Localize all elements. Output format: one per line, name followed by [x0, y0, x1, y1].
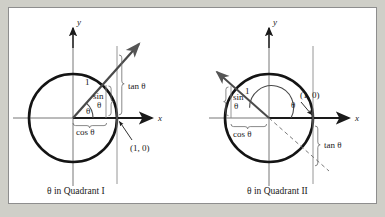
caption-quadrant-ii: θ in Quadrant II — [247, 186, 308, 196]
panel-quadrant-i: y x — [13, 17, 162, 196]
x-axis-label-quadrant-ii: x — [354, 113, 359, 123]
angle-arc-quadrant-ii — [250, 86, 294, 118]
angle-label-quadrant-ii: θ — [291, 100, 295, 110]
x-axis-label-quadrant-i: x — [157, 113, 162, 123]
radius-label-quadrant-i: 1 — [85, 77, 90, 87]
sin-label-bottom-quadrant-i: θ — [97, 100, 101, 110]
figure-root: y x — [0, 0, 385, 217]
cos-label-quadrant-i: cos θ — [76, 127, 95, 137]
point-label-quadrant-ii: (1, 0) — [300, 90, 320, 100]
point-label-quadrant-i: (1, 0) — [130, 143, 150, 153]
radius-label-quadrant-ii: 1 — [245, 86, 250, 96]
y-axis-label-quadrant-ii: y — [272, 17, 277, 27]
cos-label-quadrant-ii: cos θ — [233, 129, 252, 139]
tan-bracket-quadrant-ii — [315, 126, 320, 166]
caption-quadrant-i: θ in Quadrant I — [47, 186, 105, 196]
point-pointer-quadrant-i — [120, 122, 133, 141]
tan-label-quadrant-ii: tan θ — [324, 140, 342, 150]
angle-label-quadrant-i: θ — [86, 106, 90, 116]
sin-label-bottom-quadrant-ii: θ — [234, 101, 238, 111]
y-axis-label-quadrant-i: y — [76, 17, 81, 27]
tan-label-quadrant-i: tan θ — [128, 81, 146, 91]
figure-panel-frame: y x — [8, 7, 377, 204]
unit-circle-figure-svg: y x — [9, 8, 376, 203]
panel-quadrant-ii: y x — [209, 17, 359, 196]
